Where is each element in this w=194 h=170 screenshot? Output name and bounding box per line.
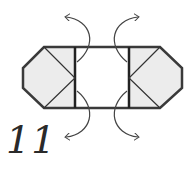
step-number: 11: [6, 120, 56, 160]
left-folded-flap: [23, 47, 75, 108]
right-folded-flap: [129, 47, 182, 108]
